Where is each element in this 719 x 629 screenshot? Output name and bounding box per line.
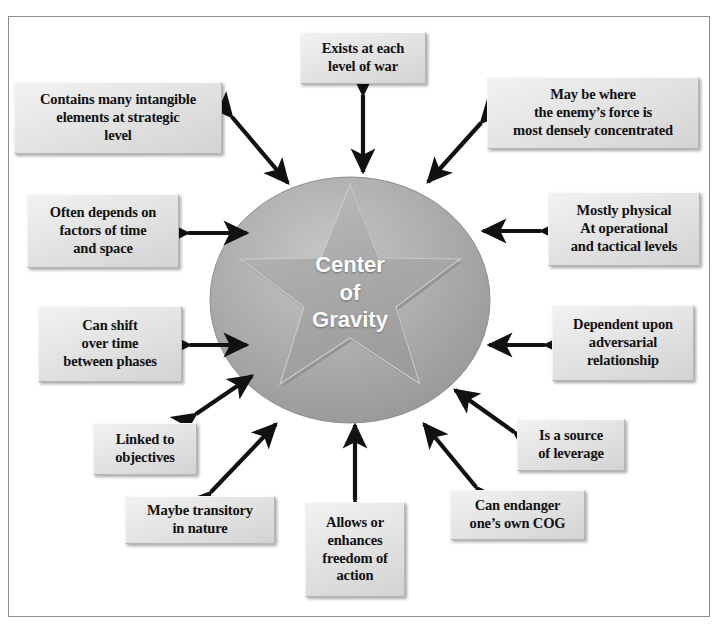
node-often-depends-on-factors-time-space[interactable]: Often depends on factors of time and spa…: [27, 194, 179, 268]
arrow-maybe-transitory-in-nature: [211, 424, 276, 492]
node-line: At operational: [555, 220, 693, 238]
node-line: elements at strategic: [21, 109, 215, 127]
node-line: Maybe transitory: [132, 502, 268, 520]
node-line: most densely concentrated: [494, 122, 692, 140]
node-line: level: [21, 127, 215, 145]
node-linked-to-objectives[interactable]: Linked to objectives: [93, 423, 197, 475]
node-line: Is a source: [524, 427, 618, 445]
node-line: adversarial: [559, 334, 687, 352]
node-line: May be where: [494, 86, 692, 104]
node-line: Allows or: [312, 514, 398, 532]
node-line: the enemy’s force is: [494, 104, 692, 122]
node-line: Exists at each: [307, 40, 419, 58]
node-line: objectives: [100, 449, 190, 467]
node-line: and tactical levels: [555, 238, 693, 256]
node-dependent-upon-adversarial-relationship[interactable]: Dependent upon adversarial relationship: [552, 305, 694, 381]
node-line: enhances: [312, 532, 398, 550]
arrow-linked-to-objectives: [196, 376, 252, 414]
node-line: action: [312, 567, 398, 585]
node-line: in nature: [132, 520, 268, 538]
node-line: and space: [34, 240, 172, 258]
node-can-endanger-ones-own-cog[interactable]: Can endanger one’s own COG: [450, 490, 585, 540]
node-mostly-physical-operational-tactical[interactable]: Mostly physical At operational and tacti…: [548, 192, 700, 266]
node-line: Mostly physical: [555, 202, 693, 220]
arrow-may-be-where-enemy-force-concentrated: [428, 123, 481, 182]
node-line: relationship: [559, 352, 687, 370]
node-line: Often depends on: [34, 204, 172, 222]
node-line: Contains many intangible: [21, 91, 215, 109]
node-line: Can shift: [45, 317, 175, 335]
arrow-is-a-source-of-leverage: [455, 390, 514, 432]
node-may-be-where-enemy-force-concentrated[interactable]: May be where the enemy’s force is most d…: [487, 77, 699, 149]
arrow-can-endanger-ones-own-cog: [424, 424, 476, 487]
node-line: over time: [45, 335, 175, 353]
node-line: Can endanger: [457, 497, 578, 515]
node-is-a-source-of-leverage[interactable]: Is a source of leverage: [517, 419, 625, 471]
arrow-contains-many-intangible-elements: [232, 117, 288, 183]
node-can-shift-over-time-between-phases[interactable]: Can shift over time between phases: [38, 306, 182, 382]
diagram-canvas: Exists at each level of war May be where…: [0, 0, 719, 629]
node-line: of leverage: [524, 445, 618, 463]
node-line: Dependent upon: [559, 316, 687, 334]
node-maybe-transitory-in-nature[interactable]: Maybe transitory in nature: [125, 496, 275, 544]
node-line: one’s own COG: [457, 515, 578, 533]
node-line: between phases: [45, 353, 175, 371]
node-allows-or-enhances-freedom-of-action[interactable]: Allows or enhances freedom of action: [305, 502, 405, 597]
node-line: Linked to: [100, 431, 190, 449]
node-line: level of war: [307, 58, 419, 76]
node-line: factors of time: [34, 222, 172, 240]
node-exists-at-each-level-of-war[interactable]: Exists at each level of war: [300, 32, 426, 84]
node-line: freedom of: [312, 550, 398, 568]
node-contains-many-intangible-elements[interactable]: Contains many intangible elements at str…: [14, 82, 222, 154]
